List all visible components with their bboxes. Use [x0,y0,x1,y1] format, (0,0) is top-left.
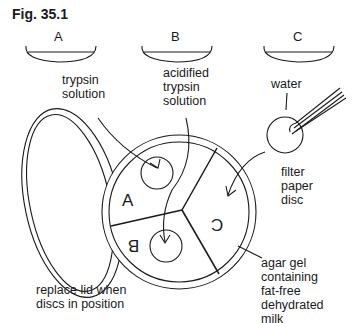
dish-label-b: B [171,30,180,44]
label-acidified-trypsin-solution: acidified trypsin solution [163,66,209,108]
dish-label-a: A [54,30,63,44]
label-filter-paper-disc: filter paper disc [281,165,313,207]
watch-glass-b [142,46,212,62]
label-water: water [271,77,302,91]
dish-label-c: C [293,30,302,44]
forceps [290,88,346,134]
label-trypsin-solution: trypsin solution [62,73,105,101]
watch-glass-a [26,46,96,62]
petri-dish [102,135,256,289]
sector-label-b: B [128,238,139,252]
sector-label-a: A [122,194,133,208]
label-agar-gel: agar gel containing fat-free dehydrated … [261,256,324,323]
pointer-water [286,93,287,110]
label-replace-lid: replace lid when discs in position [36,283,126,311]
watch-glass-c [264,46,334,62]
sector-label-c: C [211,217,223,231]
